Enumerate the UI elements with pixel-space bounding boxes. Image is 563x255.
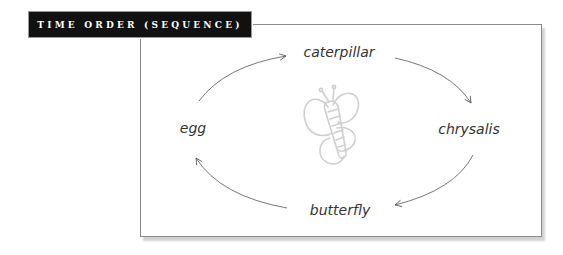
arrow-chrysalis-to-butterfly bbox=[395, 155, 473, 205]
node-caterpillar: caterpillar bbox=[303, 44, 374, 60]
node-butterfly: butterfly bbox=[310, 202, 370, 218]
arrow-caterpillar-to-chrysalis bbox=[395, 58, 471, 103]
arrow-butterfly-to-egg bbox=[196, 158, 287, 208]
node-chrysalis: chrysalis bbox=[438, 121, 500, 137]
butterfly-icon bbox=[304, 85, 358, 164]
node-egg: egg bbox=[180, 120, 206, 136]
arrow-egg-to-caterpillar bbox=[199, 56, 286, 101]
